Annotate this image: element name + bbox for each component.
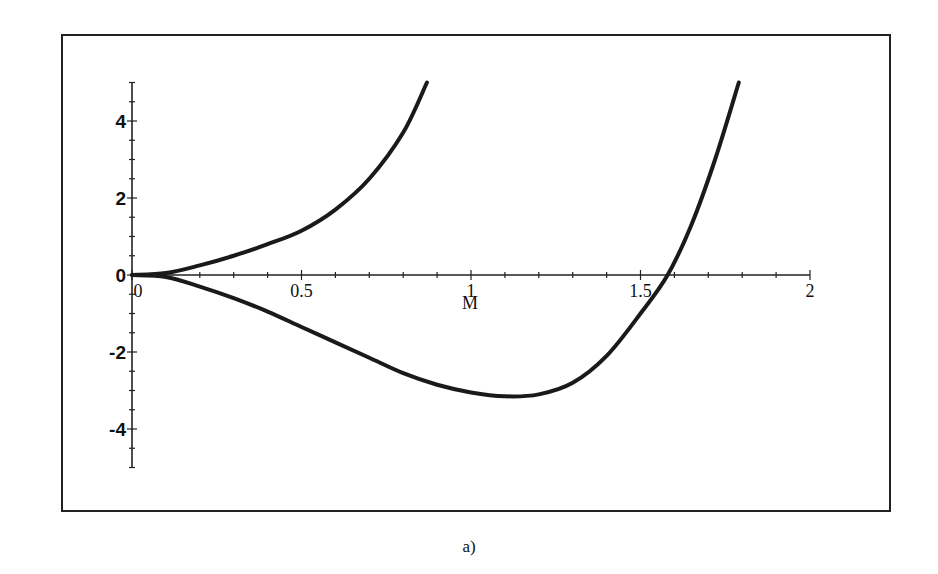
x-tick-label: 2 xyxy=(806,281,815,301)
y-tick-label: -4 xyxy=(109,419,126,440)
figure-caption: a) xyxy=(0,537,938,557)
y-tick-label: 2 xyxy=(115,188,126,209)
curves xyxy=(132,83,739,397)
y-tick-label: 4 xyxy=(115,111,126,132)
x-tick-label: 0.5 xyxy=(290,281,313,301)
y-tick-label: -2 xyxy=(109,342,126,363)
lower-curve xyxy=(132,83,739,397)
x-tick-label: 1.5 xyxy=(629,281,652,301)
x-axis-title: M xyxy=(462,293,478,313)
y-tick-label: 0 xyxy=(115,265,126,286)
upper-curve xyxy=(132,83,427,276)
plot-area: 00.511.52420-2-4 M xyxy=(0,0,938,574)
x-tick-label: 0 xyxy=(134,281,143,301)
